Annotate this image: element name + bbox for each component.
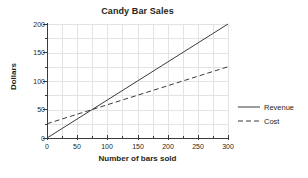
x-axis-title: Number of bars sold (47, 154, 228, 163)
x-tick-25 (62, 136, 63, 139)
gridline-vertical (228, 24, 229, 138)
series-plot (47, 24, 228, 138)
x-tick-75 (92, 136, 93, 139)
x-tick-label: 50 (64, 143, 90, 150)
x-tick-250 (198, 135, 199, 140)
y-tick-label: 50 (21, 106, 45, 113)
x-tick-200 (168, 135, 169, 140)
series-line-revenue (47, 24, 228, 138)
x-tick-label: 150 (125, 143, 151, 150)
chart-title: Candy Bar Sales (47, 6, 228, 16)
y-tick-25 (45, 124, 48, 125)
series-line-cost (47, 67, 228, 124)
y-tick-label: 0 (21, 135, 45, 142)
x-tick-150 (138, 135, 139, 140)
legend-item-revenue: Revenue (238, 100, 306, 114)
x-tick-label: 0 (34, 143, 60, 150)
x-tick-175 (153, 136, 154, 139)
chart-legend: Revenue Cost (238, 100, 306, 128)
x-tick-50 (77, 135, 78, 140)
chart-figure: Candy Bar Sales (0, 0, 308, 178)
y-tick-label: 150 (21, 49, 45, 56)
x-tick-0 (47, 135, 48, 140)
y-tick-label: 200 (21, 21, 45, 28)
legend-item-cost: Cost (238, 114, 306, 128)
x-tick-225 (183, 136, 184, 139)
x-tick-125 (122, 136, 123, 139)
y-tick-75 (45, 95, 48, 96)
x-tick-label: 100 (94, 143, 120, 150)
legend-swatch-solid-icon (238, 102, 260, 112)
y-tick-175 (45, 38, 48, 39)
legend-swatch-dashed-icon (238, 116, 260, 126)
y-tick-125 (45, 67, 48, 68)
y-tick-label: 100 (21, 78, 45, 85)
x-tick-275 (213, 136, 214, 139)
x-tick-label: 300 (215, 143, 241, 150)
y-axis-title: Dollars (9, 47, 18, 107)
legend-label: Revenue (264, 103, 294, 112)
x-tick-label: 250 (185, 143, 211, 150)
x-tick-300 (228, 135, 229, 140)
x-tick-100 (107, 135, 108, 140)
legend-label: Cost (264, 117, 279, 126)
x-tick-label: 200 (155, 143, 181, 150)
